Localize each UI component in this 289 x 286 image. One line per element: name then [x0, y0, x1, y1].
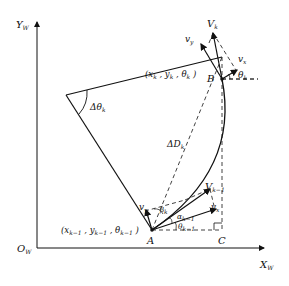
vx-B-label: vx: [238, 54, 247, 65]
delta-theta-arc: [79, 90, 87, 114]
vy-A-vector: [146, 210, 152, 230]
delta-D-label: ΔDk: [166, 139, 185, 150]
right-angle-marker: [214, 223, 222, 230]
y-axis-label: YW: [16, 19, 30, 31]
origin-label: OW: [17, 243, 32, 255]
delta-theta-label: Δθk: [89, 102, 106, 113]
diagram-canvas: YW XW OW Δθk: [0, 0, 289, 286]
beta-k-label: βk: [159, 206, 168, 215]
B-coordinates: (xk , yk , θk ): [145, 69, 196, 80]
Vk-label: Vk: [207, 18, 218, 30]
axes: [37, 22, 264, 248]
vy-B-label: vy: [185, 34, 194, 46]
x-axis-label: XW: [259, 259, 274, 271]
Vk1-label: Vk−1: [205, 181, 225, 193]
alpha-arc: [169, 218, 172, 223]
theta-k1-label: θk−1: [178, 222, 195, 232]
theta-k1-arc: [175, 222, 176, 230]
point-C-label: C: [218, 235, 226, 246]
alpha-k1-label: αk−1: [177, 212, 195, 222]
point-B-marker: [220, 77, 224, 81]
point-B-label: B: [206, 73, 214, 84]
A-coordinates: (xk−1 , yk−1 , θk−1 ): [61, 225, 139, 236]
vx-B-vector: [222, 70, 237, 79]
point-A-marker: [150, 228, 154, 232]
theta-k-label: θk: [238, 70, 247, 81]
vx-A-label: vx: [211, 202, 220, 213]
point-A-label: A: [146, 235, 154, 246]
